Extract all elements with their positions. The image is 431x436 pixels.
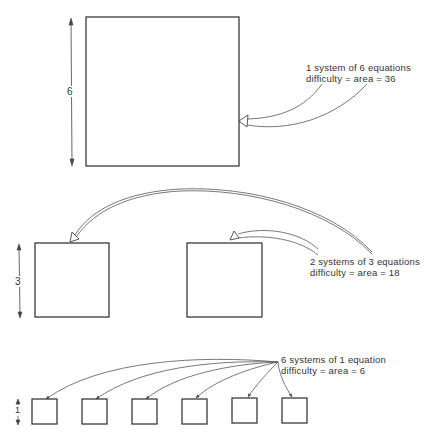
caption-line-2: difficulty = area = 6 (281, 365, 386, 376)
caption-line-2: difficulty = area = 18 (310, 267, 420, 278)
caption-six-systems: 6 systems of 1 equation difficulty = are… (281, 354, 386, 376)
large-square (86, 17, 239, 166)
small-square-2 (82, 399, 107, 424)
dimension-label-1: 1 (15, 405, 20, 416)
hollow-arrowhead-icon (230, 231, 239, 240)
caption-line-2: difficulty = area = 36 (306, 73, 411, 84)
section-two-systems (17, 189, 372, 318)
section-one-system (69, 17, 367, 166)
callout-arrow-18-left (70, 189, 372, 254)
small-square-5 (232, 398, 257, 423)
callout-arrows-6 (46, 359, 292, 399)
small-square-1 (32, 399, 57, 424)
dimension-label-3: 3 (15, 276, 21, 287)
caption-two-systems: 2 systems of 3 equations difficulty = ar… (310, 256, 420, 278)
hollow-arrowhead-icon (70, 232, 79, 242)
medium-square-2 (187, 243, 262, 317)
small-square-6 (282, 398, 307, 423)
caption-line-1: 1 system of 6 equations (306, 62, 411, 73)
small-square-3 (132, 399, 157, 424)
callout-arrow-36 (239, 84, 367, 127)
hollow-arrowhead-icon (239, 115, 248, 127)
dimension-label-6: 6 (67, 86, 73, 97)
medium-square-1 (35, 243, 109, 317)
caption-one-system: 1 system of 6 equations difficulty = are… (306, 62, 411, 84)
small-square-4 (182, 399, 207, 424)
section-six-systems (16, 359, 307, 425)
caption-line-1: 6 systems of 1 equation (281, 354, 386, 365)
caption-line-1: 2 systems of 3 equations (310, 256, 420, 267)
